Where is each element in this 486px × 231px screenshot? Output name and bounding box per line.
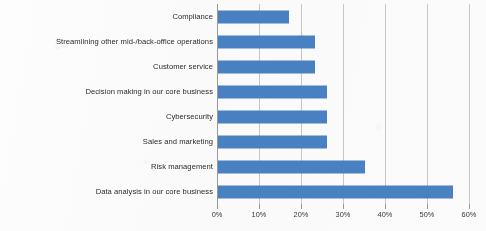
- bar-row: Customer service: [0, 54, 486, 79]
- bar: [218, 110, 327, 123]
- x-tick-label: 30%: [336, 211, 351, 218]
- bar: [218, 60, 315, 73]
- bar-rows: ComplianceStreamlining other mid-/back-o…: [0, 4, 486, 204]
- category-label: Risk management: [0, 163, 213, 171]
- x-tick-label: 20%: [294, 211, 309, 218]
- bar-row: Streamlining other mid-/back-office oper…: [0, 29, 486, 54]
- x-tick-label: 0%: [212, 211, 223, 218]
- x-tick: [343, 204, 344, 209]
- category-label: Streamlining other mid-/back-office oper…: [0, 38, 213, 46]
- bar-row: Data analysis in our core business: [0, 179, 486, 204]
- category-label: Compliance: [0, 13, 213, 21]
- bar: [218, 85, 327, 98]
- x-axis: 0%10%20%30%40%50%60%: [217, 204, 469, 231]
- bar: [218, 35, 315, 48]
- bar-row: Risk management: [0, 154, 486, 179]
- category-label: Cybersecurity: [0, 113, 213, 121]
- bar: [218, 135, 327, 148]
- x-tick: [301, 204, 302, 209]
- x-tick-label: 40%: [378, 211, 393, 218]
- x-tick-label: 50%: [420, 211, 435, 218]
- x-tick: [427, 204, 428, 209]
- bar: [218, 160, 365, 173]
- category-label: Customer service: [0, 63, 213, 71]
- x-tick-label: 10%: [252, 211, 267, 218]
- bar: [218, 185, 453, 198]
- bar-row: Compliance: [0, 4, 486, 29]
- horizontal-bar-chart: ComplianceStreamlining other mid-/back-o…: [0, 0, 486, 231]
- bar-row: Decision making in our core business: [0, 79, 486, 104]
- category-label: Data analysis in our core business: [0, 188, 213, 196]
- bar-row: Sales and marketing: [0, 129, 486, 154]
- x-tick: [469, 204, 470, 209]
- x-tick-label: 60%: [462, 211, 477, 218]
- x-tick: [217, 204, 218, 209]
- x-tick: [385, 204, 386, 209]
- bar: [218, 10, 289, 23]
- category-label: Decision making in our core business: [0, 88, 213, 96]
- category-label: Sales and marketing: [0, 138, 213, 146]
- bar-row: Cybersecurity: [0, 104, 486, 129]
- x-tick: [259, 204, 260, 209]
